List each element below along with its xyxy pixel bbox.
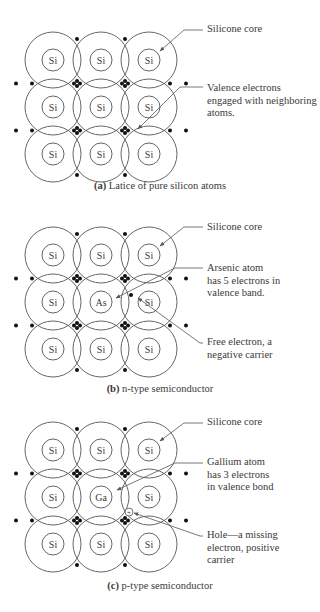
svg-text:Si: Si — [49, 344, 58, 355]
svg-text:Si: Si — [49, 297, 58, 308]
panel-a-lattice: SiSiSiSiSiSiSiSiSi — [14, 30, 203, 182]
svg-text:Si: Si — [49, 102, 58, 113]
electron-dot — [184, 129, 188, 133]
free-electron — [129, 293, 133, 297]
electron-dot — [72, 519, 76, 523]
electron-dot — [78, 129, 82, 133]
electron-dot — [126, 324, 130, 328]
label-c-hole: Hole—a missing electron, positive carrie… — [207, 529, 279, 567]
electron-dot — [123, 232, 127, 236]
electron-dot — [14, 519, 18, 523]
svg-text:Si: Si — [145, 539, 154, 550]
caption-b: (b) n-type semiconductor — [0, 383, 320, 394]
electron-dot — [168, 519, 172, 523]
electron-dot — [120, 277, 124, 281]
electron-dot — [75, 427, 79, 431]
electron-dot — [72, 277, 76, 281]
electron-dot — [75, 232, 79, 236]
svg-text:Si: Si — [97, 344, 106, 355]
svg-text:Ga: Ga — [95, 492, 107, 503]
electron-dot — [14, 82, 18, 86]
electron-dot — [123, 427, 127, 431]
electron-dot — [184, 82, 188, 86]
electron-dot — [75, 37, 79, 41]
electron-dot — [72, 129, 76, 133]
electron-dot — [126, 129, 130, 133]
electron-dot — [168, 324, 172, 328]
electron-dot — [123, 173, 127, 177]
svg-text:Si: Si — [49, 445, 58, 456]
svg-text:Si: Si — [145, 102, 154, 113]
electron-dot — [72, 472, 76, 476]
electron-dot — [120, 324, 124, 328]
svg-text:Si: Si — [145, 250, 154, 261]
electron-dot — [168, 277, 172, 281]
svg-text:Si: Si — [97, 102, 106, 113]
svg-text:+: + — [127, 509, 131, 517]
svg-text:Si: Si — [49, 55, 58, 66]
label-b-arsenic-atom: Arsenic atom has 5 electrons in valence … — [207, 262, 280, 300]
label-c-gallium-atom: Gallium atom has 3 electrons in valence … — [207, 456, 273, 494]
electron-dot — [168, 82, 172, 86]
electron-dot — [184, 277, 188, 281]
electron-dot — [78, 324, 82, 328]
svg-text:Si: Si — [49, 250, 58, 261]
electron-dot — [123, 37, 127, 41]
electron-dot — [184, 519, 188, 523]
electron-dot — [30, 519, 34, 523]
label-a-silicone-core: Silicone core — [207, 23, 262, 36]
svg-text:As: As — [95, 297, 106, 308]
svg-text:Si: Si — [145, 492, 154, 503]
electron-dot — [14, 472, 18, 476]
electron-dot — [14, 129, 18, 133]
svg-text:Si: Si — [145, 149, 154, 160]
label-c-silicone-core: Silicone core — [207, 416, 262, 429]
electron-dot — [126, 277, 130, 281]
label-b-silicone-core: Silicone core — [207, 221, 262, 234]
electron-dot — [126, 82, 130, 86]
electron-dot — [168, 472, 172, 476]
electron-dot — [30, 129, 34, 133]
electron-dot — [184, 324, 188, 328]
electron-dot — [126, 519, 130, 523]
caption-c: (c) p-type semiconductor — [0, 580, 320, 591]
electron-dot — [30, 472, 34, 476]
electron-dot — [78, 472, 82, 476]
svg-text:Si: Si — [97, 55, 106, 66]
electron-dot — [30, 324, 34, 328]
electron-dot — [184, 472, 188, 476]
electron-dot — [120, 472, 124, 476]
electron-dot — [72, 324, 76, 328]
electron-dot — [126, 472, 130, 476]
svg-text:Si: Si — [145, 344, 154, 355]
electron-dot — [78, 82, 82, 86]
svg-text:Si: Si — [49, 539, 58, 550]
electron-dot — [123, 563, 127, 567]
electron-dot — [120, 519, 124, 523]
electron-dot — [120, 129, 124, 133]
panel-c-lattice: SiSiSiSiGaSiSiSiSi+ — [14, 422, 203, 572]
caption-a: (a) Latice of pure silicon atoms — [0, 180, 320, 191]
electron-dot — [75, 368, 79, 372]
svg-text:Si: Si — [97, 539, 106, 550]
electron-dot — [120, 82, 124, 86]
electron-dot — [168, 129, 172, 133]
electron-dot — [30, 82, 34, 86]
electron-dot — [30, 277, 34, 281]
electron-dot — [123, 368, 127, 372]
label-a-valence-electrons: Valence electrons engaged with neighbori… — [207, 82, 317, 120]
electron-dot — [75, 563, 79, 567]
electron-dot — [72, 82, 76, 86]
electron-dot — [78, 277, 82, 281]
panel-b-lattice: SiSiSiSiAsSiSiSiSi — [14, 227, 203, 377]
svg-text:Si: Si — [97, 445, 106, 456]
electron-dot — [14, 277, 18, 281]
svg-text:Si: Si — [97, 149, 106, 160]
electron-dot — [14, 324, 18, 328]
electron-dot — [75, 173, 79, 177]
label-b-free-electron: Free electron, a negative carrier — [207, 336, 273, 361]
svg-text:Si: Si — [145, 55, 154, 66]
electron-dot — [78, 519, 82, 523]
svg-text:Si: Si — [49, 492, 58, 503]
svg-text:Si: Si — [97, 250, 106, 261]
